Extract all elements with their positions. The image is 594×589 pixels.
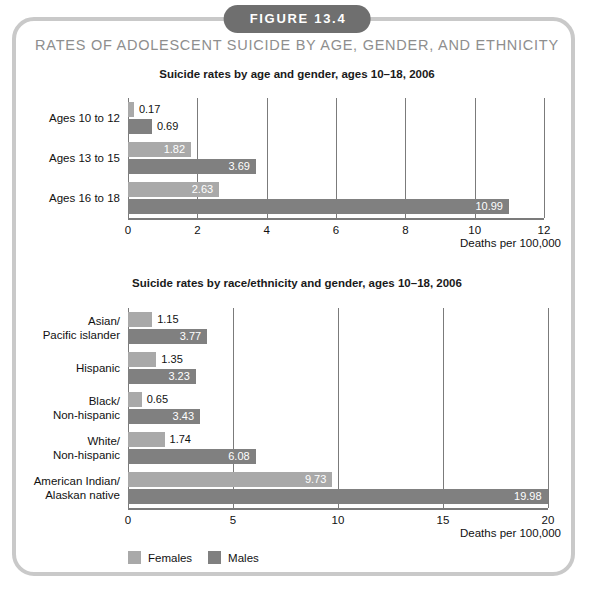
category-label: Black/Non-hispanic [0, 394, 120, 422]
bar-value-label: 3.23 [168, 371, 189, 382]
bar-value-label: 1.35 [161, 354, 182, 365]
x-tick-label: 8 [402, 224, 408, 236]
chart-2-xlabel: Deaths per 100,000 [460, 527, 561, 539]
legend-label: Males [228, 552, 259, 564]
chart-1-xlabel: Deaths per 100,000 [460, 237, 561, 249]
bar-value-label: 9.73 [305, 474, 326, 485]
bar-value-label: 0.65 [147, 394, 168, 405]
category-label: Hispanic [0, 361, 120, 375]
legend-item-females: Females [128, 551, 192, 564]
figure-title: RATES OF ADOLESCENT SUICIDE BY AGE, GEND… [0, 37, 594, 53]
bar-males [128, 199, 509, 214]
x-tick-label: 10 [332, 514, 345, 526]
x-tick-label: 6 [333, 224, 339, 236]
bar-value-label: 3.77 [180, 331, 201, 342]
x-axis-line [128, 218, 544, 220]
bar-value-label: 1.15 [157, 314, 178, 325]
bar-value-label: 3.69 [228, 161, 249, 172]
category-label: White/Non-hispanic [0, 434, 120, 462]
gridline [548, 308, 549, 508]
bar-females [128, 312, 152, 327]
x-tick-label: 0 [125, 514, 131, 526]
figure-root: FIGURE 13.4 RATES OF ADOLESCENT SUICIDE … [0, 0, 594, 589]
x-axis-line [128, 508, 548, 510]
gridline [544, 98, 545, 218]
x-tick-label: 15 [437, 514, 450, 526]
x-tick-label: 2 [194, 224, 200, 236]
x-tick-label: 10 [468, 224, 481, 236]
category-label: Asian/Pacific islander [0, 314, 120, 342]
category-label: Ages 10 to 12 [0, 111, 120, 125]
bar-males [128, 119, 152, 134]
legend-item-males: Males [208, 551, 259, 564]
bar-value-label: 0.69 [157, 121, 178, 132]
legend-swatch-icon [208, 551, 221, 564]
x-tick-label: 5 [230, 514, 236, 526]
bar-value-label: 6.08 [228, 451, 249, 462]
bar-females [128, 472, 332, 487]
bar-females [128, 392, 142, 407]
bar-value-label: 2.63 [192, 184, 213, 195]
chart-2: 05101520Asian/Pacific islander1.153.77Hi… [128, 308, 548, 508]
category-label: American Indian/Alaskan native [0, 474, 120, 502]
bar-value-label: 19.98 [514, 491, 542, 502]
bar-value-label: 1.74 [170, 434, 191, 445]
bar-females [128, 352, 156, 367]
bar-value-label: 0.17 [139, 104, 160, 115]
x-tick-label: 20 [542, 514, 555, 526]
bar-value-label: 10.99 [475, 201, 503, 212]
x-tick-label: 4 [263, 224, 269, 236]
chart-legend: FemalesMales [128, 551, 259, 564]
chart-1-subtitle: Suicide rates by age and gender, ages 10… [0, 68, 594, 80]
category-label: Ages 16 to 18 [0, 191, 120, 205]
chart-1: 024681012Ages 10 to 120.170.69Ages 13 to… [128, 98, 544, 218]
x-tick-label: 0 [125, 224, 131, 236]
bar-females [128, 102, 134, 117]
figure-badge: FIGURE 13.4 [224, 5, 371, 33]
legend-swatch-icon [128, 551, 141, 564]
category-label: Ages 13 to 15 [0, 151, 120, 165]
bar-females [128, 432, 165, 447]
bar-males [128, 489, 548, 504]
gridline [443, 308, 444, 508]
bar-value-label: 3.43 [173, 411, 194, 422]
x-tick-label: 12 [538, 224, 551, 236]
chart-2-subtitle: Suicide rates by race/ethnicity and gend… [0, 277, 594, 289]
legend-label: Females [148, 552, 192, 564]
gridline [338, 308, 339, 508]
bar-value-label: 1.82 [164, 144, 185, 155]
